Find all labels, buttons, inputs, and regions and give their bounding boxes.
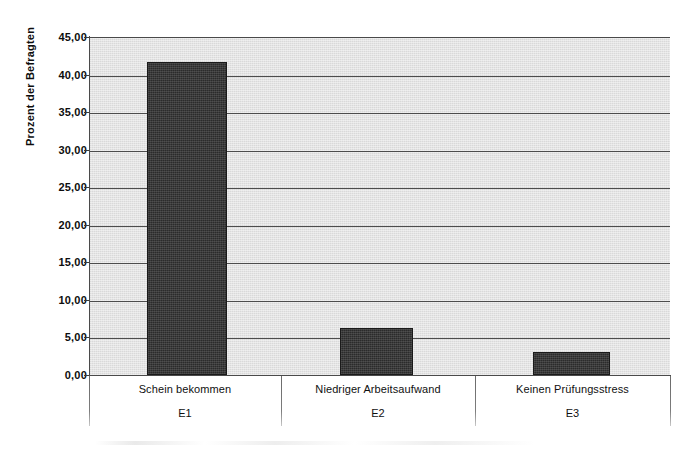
y-axis-tick-labels: 45,0040,0035,0030,0025,0020,0015,0010,00… <box>36 37 87 375</box>
y-tick-label: 15,00 <box>36 255 87 269</box>
bars-layer <box>89 38 670 375</box>
y-tick-label: 20,00 <box>36 218 87 232</box>
bar-e2 <box>340 328 413 375</box>
category-code-e2: E2 <box>281 405 475 421</box>
category-label-e2: Niedriger Arbeitsaufwand <box>281 381 475 397</box>
bar-chart-figure: Prozent der Befragten 45,0040,0035,0030,… <box>0 0 694 450</box>
y-tick-label: 10,00 <box>36 293 87 307</box>
y-tick-label: 25,00 <box>36 180 87 194</box>
x-axis-line <box>89 375 671 376</box>
bar-e3 <box>533 352 610 375</box>
bar-e1 <box>147 62 227 375</box>
category-separator <box>670 376 671 426</box>
category-label-e1: Schein bekommen <box>89 381 281 397</box>
category-code-e1: E1 <box>89 405 281 421</box>
y-tick-label: 30,00 <box>36 143 87 157</box>
category-code-e3: E3 <box>475 405 670 421</box>
y-tick-label: 5,00 <box>36 330 87 344</box>
category-label-e3: Keinen Prüfungsstress <box>475 381 670 397</box>
plot-area <box>89 37 670 375</box>
scan-artifact <box>95 441 595 445</box>
y-axis-line <box>89 36 90 376</box>
y-tick-label: 0,00 <box>36 368 87 382</box>
y-tick-label: 40,00 <box>36 68 87 82</box>
y-tick-label: 35,00 <box>36 105 87 119</box>
y-tick-label: 45,00 <box>36 30 87 44</box>
